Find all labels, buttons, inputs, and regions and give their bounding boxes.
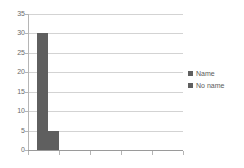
y-axis-tick-label: 25 — [3, 49, 25, 57]
y-axis-tick-label: 35 — [3, 10, 25, 18]
y-axis-tick-labels: 05101520253035 — [0, 0, 25, 168]
legend-item[interactable]: No name — [188, 80, 242, 91]
bar — [37, 33, 48, 150]
plot-area — [28, 14, 183, 150]
y-axis-tick-mark — [25, 33, 28, 34]
y-axis-tick-label: 0 — [3, 146, 25, 154]
legend-item[interactable]: Name — [188, 68, 242, 79]
x-axis-line — [28, 150, 183, 151]
bar-chart: 05101520253035 NameNo name — [0, 0, 244, 168]
gridline — [28, 53, 183, 54]
gridline — [28, 72, 183, 73]
x-axis-tick-mark — [90, 151, 91, 155]
x-axis-tick-mark — [28, 151, 29, 155]
gridline — [28, 33, 183, 34]
x-axis-tick-mark — [59, 151, 60, 155]
y-axis-tick-mark — [25, 53, 28, 54]
legend-swatch-icon — [188, 83, 193, 88]
y-axis-tick-mark — [25, 150, 28, 151]
y-axis-tick-mark — [25, 131, 28, 132]
y-axis-tick-label: 20 — [3, 68, 25, 76]
chart-legend: NameNo name — [188, 68, 242, 92]
y-axis-tick-label: 30 — [3, 29, 25, 37]
y-axis-tick-mark — [25, 111, 28, 112]
y-axis-tick-label: 10 — [3, 107, 25, 115]
x-axis-tick-mark — [121, 151, 122, 155]
x-axis-tick-mark — [152, 151, 153, 155]
gridline — [28, 111, 183, 112]
y-axis-tick-label: 15 — [3, 88, 25, 96]
gridline — [28, 92, 183, 93]
x-axis-tick-mark — [183, 151, 184, 155]
y-axis-tick-mark — [25, 14, 28, 15]
legend-label: Name — [196, 70, 215, 78]
y-axis-tick-mark — [25, 92, 28, 93]
y-axis-tick-mark — [25, 72, 28, 73]
gridline — [28, 14, 183, 15]
y-axis-tick-label: 5 — [3, 127, 25, 135]
bar — [48, 131, 59, 150]
legend-swatch-icon — [188, 71, 193, 76]
y-axis-line — [28, 14, 29, 150]
legend-label: No name — [196, 82, 224, 90]
